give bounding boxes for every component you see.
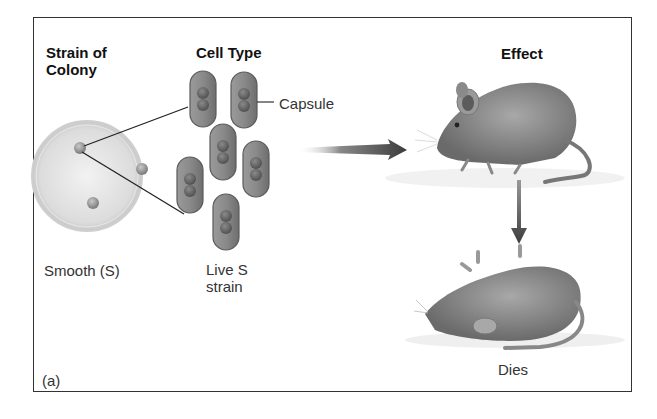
bacterium-cell-icon bbox=[177, 71, 269, 250]
label-live-s: Live S bbox=[206, 261, 248, 278]
label-strain: strain bbox=[206, 278, 248, 295]
panel-label: (a) bbox=[42, 372, 60, 389]
heading-strain-line2: Colony bbox=[46, 61, 107, 78]
mouse-dead-icon bbox=[405, 246, 625, 348]
heading-effect: Effect bbox=[501, 45, 543, 62]
petri-dish-icon bbox=[32, 121, 148, 231]
heading-strain-line1: Strain of bbox=[46, 44, 107, 61]
label-capsule: Capsule bbox=[279, 95, 334, 112]
arrow-down-icon bbox=[511, 180, 527, 244]
mouse-alive-icon bbox=[385, 82, 625, 188]
label-smooth-s: Smooth (S) bbox=[44, 262, 120, 279]
heading-strain-of-colony: Strain of Colony bbox=[46, 44, 107, 78]
arrow-right-icon bbox=[296, 139, 407, 160]
label-live-s-strain: Live S strain bbox=[206, 261, 248, 295]
heading-cell-type: Cell Type bbox=[196, 44, 262, 61]
label-dies: Dies bbox=[498, 361, 528, 378]
